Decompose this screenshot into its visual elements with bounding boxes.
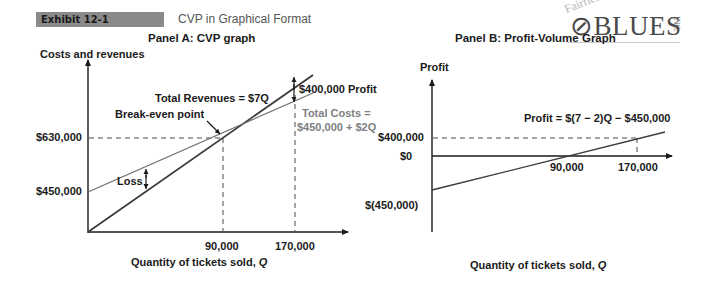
panel-b-xlabel: Quantity of tickets sold, Q [470, 259, 606, 271]
panel-a-ytick-450k: $450,000 [36, 185, 82, 197]
cost-line-label-2: $450,000 + $2Q [297, 121, 376, 133]
panel-b-ytick-neg450k: $(450,000) [365, 199, 418, 211]
panel-a-xlabel: Quantity of tickets sold, Q [131, 256, 267, 268]
break-even-label: Break-even point [115, 108, 204, 120]
panel-b-ylabel: Profit [420, 61, 449, 73]
break-even-arrow [207, 121, 220, 134]
panel-b-ytick-0: $0 [400, 150, 412, 162]
panel-a-ytick-630k: $630,000 [36, 131, 82, 143]
cost-line-label-1: Total Costs = [302, 107, 371, 119]
panel-b-xtick-90k: 90,000 [550, 161, 584, 173]
panel-b-title: Panel B: Profit-Volume Graph [455, 32, 616, 44]
panel-a-xtick-170k: 170,000 [275, 240, 315, 252]
panel-a-xtick-90k: 90,000 [205, 240, 239, 252]
panel-a-title: Panel A: CVP graph [148, 32, 255, 44]
loss-label: Loss [117, 175, 143, 187]
revenue-line-label: Total Revenues = $7Q [155, 92, 269, 104]
panel-b-axes [432, 80, 672, 232]
panel-a-ylabel: Costs and revenues [40, 48, 145, 60]
panel-b-xtick-170k: 170,000 [618, 161, 658, 173]
profit-label: $400,000 Profit [299, 83, 377, 95]
profit-line-label: Profit = $(7 − 2)Q − $450,000 [524, 112, 670, 124]
panel-b-ytick-400k: $400,000 [378, 131, 424, 143]
